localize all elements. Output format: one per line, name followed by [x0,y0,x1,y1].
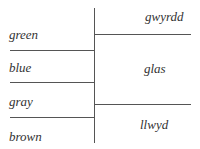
center-divider [94,8,95,143]
english-term-blue: blue [9,61,31,74]
english-term-green: green [9,28,38,41]
right-divider-1 [95,34,191,35]
welsh-term-llwyd: llwyd [140,118,168,131]
right-divider-2 [95,104,191,105]
welsh-term-gwyrdd: gwyrdd [145,10,184,23]
welsh-term-glas: glas [144,62,166,75]
left-divider-2 [10,82,94,83]
english-term-gray: gray [9,95,33,108]
left-divider-3 [10,117,94,118]
english-term-brown: brown [9,130,42,143]
left-divider-1 [10,50,94,51]
